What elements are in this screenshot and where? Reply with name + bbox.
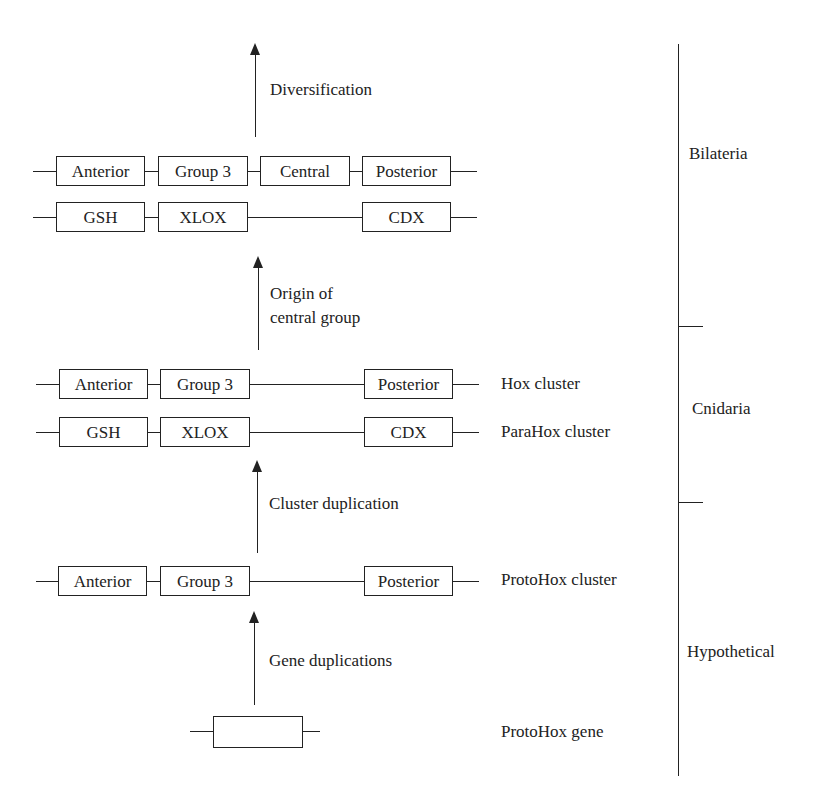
gene-box-group3: Group 3	[160, 369, 250, 399]
protohox-gene-label: ProtoHox gene	[501, 721, 603, 743]
clade-label-bilateria: Bilateria	[689, 143, 748, 165]
gene-duplications-arrow	[254, 613, 255, 705]
gene-box-posterior: Posterior	[364, 369, 453, 399]
gene-duplications-label: Gene duplications	[269, 650, 392, 672]
gene-box-protohox	[213, 716, 303, 748]
hox-parahox-evolution-diagram: Diversification Anterior Group 3 Central…	[0, 0, 831, 807]
diversification-arrow	[255, 45, 256, 137]
cluster-duplication-arrow	[257, 462, 258, 553]
parahox-cluster-label: ParaHox cluster	[501, 421, 610, 443]
clade-label-cnidaria: Cnidaria	[692, 398, 751, 420]
gene-box-cdx: CDX	[362, 202, 451, 232]
gene-box-posterior: Posterior	[362, 156, 451, 186]
clade-label-hypothetical: Hypothetical	[687, 641, 775, 663]
clade-divider-bilateria-cnidaria	[678, 326, 703, 327]
origin-central-group-arrow	[258, 258, 259, 350]
gene-box-xlox: XLOX	[158, 202, 248, 232]
diversification-label: Diversification	[270, 79, 372, 101]
clade-axis-line	[678, 44, 679, 776]
gene-box-gsh: GSH	[59, 417, 148, 447]
hox-cluster-label: Hox cluster	[501, 373, 580, 395]
gene-box-anterior: Anterior	[58, 566, 147, 596]
cluster-duplication-label: Cluster duplication	[269, 493, 399, 515]
gene-box-anterior: Anterior	[59, 369, 148, 399]
gene-box-cdx: CDX	[364, 417, 453, 447]
gene-box-xlox: XLOX	[160, 417, 250, 447]
origin-central-group-label-line2: central group	[270, 307, 360, 329]
clade-divider-cnidaria-hypothetical	[678, 502, 703, 503]
gene-box-posterior: Posterior	[364, 566, 453, 596]
gene-box-anterior: Anterior	[56, 156, 145, 186]
origin-central-group-label-line1: Origin of	[270, 283, 333, 305]
gene-box-gsh: GSH	[56, 202, 145, 232]
gene-box-group3: Group 3	[160, 566, 250, 596]
protohox-cluster-label: ProtoHox cluster	[501, 569, 617, 591]
gene-box-group3: Group 3	[158, 156, 248, 186]
gene-box-central: Central	[260, 156, 350, 186]
